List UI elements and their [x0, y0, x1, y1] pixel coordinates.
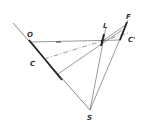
label-f: F [126, 13, 131, 21]
label-c-prime: C' [128, 36, 135, 44]
label-l: L [103, 22, 107, 30]
label-s: S [87, 114, 92, 122]
label-c: C [30, 60, 36, 68]
point-l [101, 40, 104, 43]
line-s-l [90, 27, 106, 110]
geometry-diagram: O C L F C' S [0, 0, 145, 126]
label-o: O [27, 31, 33, 39]
